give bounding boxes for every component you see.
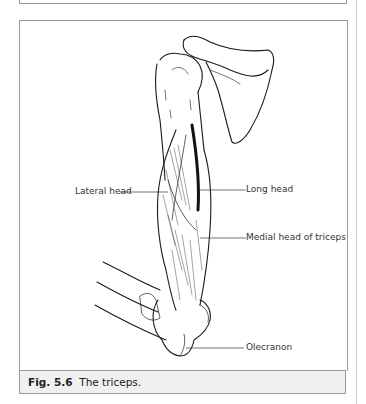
triceps-illustration: [0, 0, 366, 404]
figure-caption: Fig. 5.6 The triceps.: [28, 376, 141, 388]
label-lateral-head: Lateral head: [75, 186, 132, 196]
figure-caption-text: The triceps.: [79, 376, 141, 388]
figure-caption-box: Fig. 5.6 The triceps.: [19, 370, 346, 394]
label-long-head: Long head: [246, 184, 293, 194]
label-medial-head: Medial head of triceps: [246, 232, 346, 242]
figure-number: Fig. 5.6: [28, 376, 73, 388]
label-olecranon: Olecranon: [246, 342, 292, 352]
